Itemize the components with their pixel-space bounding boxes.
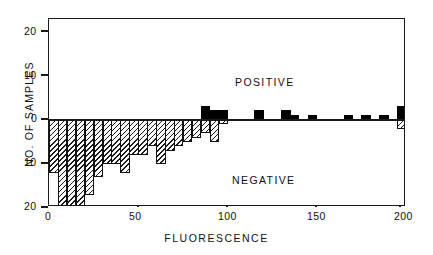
annotation-positive: POSITIVE [235, 76, 295, 88]
y-tick-bot-10 [41, 162, 48, 164]
y-tick-label-bot-20: 20 [24, 200, 36, 212]
y-tick-top-20 [41, 30, 48, 32]
x-tick-label-0: 0 [45, 210, 51, 222]
x-tick-label-100: 100 [218, 210, 237, 222]
figure-container: 20 10 0 10 20 0 50 100 150 200 FLUORESCE… [0, 0, 433, 255]
bar-positive-195-200 [397, 106, 405, 119]
x-tick-label-50: 50 [129, 210, 141, 222]
x-tick-label-150: 150 [307, 210, 326, 222]
y-axis-title: NO. OF SAMPLES [23, 29, 35, 199]
bars-layer [49, 19, 405, 206]
annotation-negative: NEGATIVE [232, 174, 296, 186]
x-tick-label-200: 200 [394, 210, 413, 222]
y-tick-zero [41, 118, 48, 120]
bar-positive-95-100 [219, 110, 229, 119]
y-tick-bot-20 [41, 206, 48, 208]
y-tick-top-10 [41, 74, 48, 76]
plot-area: POSITIVE NEGATIVE [48, 18, 405, 206]
zero-baseline [49, 119, 405, 121]
x-axis-title: FLUORESCENCE [0, 232, 433, 244]
bar-positive-115-120 [254, 110, 264, 119]
